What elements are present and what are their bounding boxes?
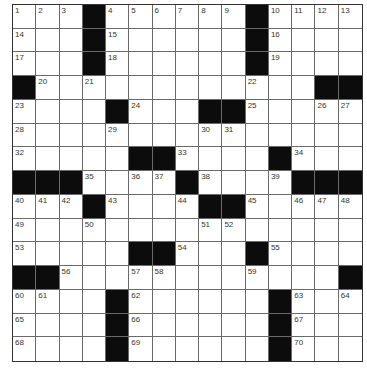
grid-cell[interactable]: 41 [36, 195, 59, 219]
grid-cell[interactable] [339, 242, 362, 266]
grid-cell[interactable] [315, 219, 338, 243]
grid-cell[interactable] [222, 337, 245, 361]
grid-cell[interactable] [106, 76, 129, 100]
grid-cell[interactable]: 14 [13, 29, 36, 53]
grid-cell[interactable]: 40 [13, 195, 36, 219]
grid-cell[interactable] [199, 314, 222, 338]
grid-cell[interactable] [153, 219, 176, 243]
grid-cell[interactable] [222, 29, 245, 53]
grid-cell[interactable] [36, 100, 59, 124]
grid-cell[interactable] [315, 290, 338, 314]
grid-cell[interactable]: 21 [83, 76, 106, 100]
grid-cell[interactable] [339, 29, 362, 53]
grid-cell[interactable] [246, 337, 269, 361]
grid-cell[interactable] [339, 147, 362, 171]
grid-cell[interactable] [315, 52, 338, 76]
grid-cell[interactable]: 28 [13, 124, 36, 148]
grid-cell[interactable] [269, 124, 292, 148]
grid-cell[interactable] [129, 124, 152, 148]
grid-cell[interactable] [315, 266, 338, 290]
grid-cell[interactable] [292, 76, 315, 100]
grid-cell[interactable] [339, 314, 362, 338]
grid-cell[interactable] [153, 337, 176, 361]
grid-cell[interactable] [199, 337, 222, 361]
grid-cell[interactable]: 36 [129, 171, 152, 195]
grid-cell[interactable] [36, 52, 59, 76]
grid-cell[interactable] [246, 314, 269, 338]
grid-cell[interactable]: 5 [129, 5, 152, 29]
grid-cell[interactable] [176, 124, 199, 148]
grid-cell[interactable] [153, 76, 176, 100]
grid-cell[interactable]: 37 [153, 171, 176, 195]
grid-cell[interactable] [292, 219, 315, 243]
grid-cell[interactable]: 34 [292, 147, 315, 171]
grid-cell[interactable]: 16 [269, 29, 292, 53]
grid-cell[interactable] [315, 314, 338, 338]
grid-cell[interactable]: 35 [83, 171, 106, 195]
grid-cell[interactable]: 56 [60, 266, 83, 290]
grid-cell[interactable] [292, 124, 315, 148]
grid-cell[interactable] [106, 242, 129, 266]
grid-cell[interactable] [153, 52, 176, 76]
grid-cell[interactable] [315, 29, 338, 53]
grid-cell[interactable] [36, 147, 59, 171]
grid-cell[interactable]: 17 [13, 52, 36, 76]
grid-cell[interactable] [60, 314, 83, 338]
grid-cell[interactable]: 58 [153, 266, 176, 290]
grid-cell[interactable] [83, 242, 106, 266]
grid-cell[interactable] [222, 266, 245, 290]
grid-cell[interactable]: 10 [269, 5, 292, 29]
grid-cell[interactable]: 54 [176, 242, 199, 266]
grid-cell[interactable] [106, 219, 129, 243]
grid-cell[interactable] [246, 290, 269, 314]
grid-cell[interactable]: 3 [60, 5, 83, 29]
grid-cell[interactable]: 42 [60, 195, 83, 219]
grid-cell[interactable] [176, 266, 199, 290]
grid-cell[interactable]: 15 [106, 29, 129, 53]
grid-cell[interactable] [153, 29, 176, 53]
grid-cell[interactable] [222, 290, 245, 314]
grid-cell[interactable] [106, 147, 129, 171]
grid-cell[interactable] [129, 76, 152, 100]
grid-cell[interactable] [176, 337, 199, 361]
grid-cell[interactable] [106, 171, 129, 195]
grid-cell[interactable]: 47 [315, 195, 338, 219]
grid-cell[interactable]: 49 [13, 219, 36, 243]
grid-cell[interactable] [36, 219, 59, 243]
grid-cell[interactable]: 38 [199, 171, 222, 195]
grid-cell[interactable]: 2 [36, 5, 59, 29]
grid-cell[interactable] [269, 195, 292, 219]
grid-cell[interactable] [36, 242, 59, 266]
grid-cell[interactable] [292, 29, 315, 53]
grid-cell[interactable]: 32 [13, 147, 36, 171]
grid-cell[interactable] [269, 219, 292, 243]
grid-cell[interactable]: 68 [13, 337, 36, 361]
grid-cell[interactable]: 25 [246, 100, 269, 124]
grid-cell[interactable] [129, 29, 152, 53]
grid-cell[interactable]: 19 [269, 52, 292, 76]
grid-cell[interactable] [199, 76, 222, 100]
grid-cell[interactable] [60, 147, 83, 171]
grid-cell[interactable] [176, 29, 199, 53]
grid-cell[interactable] [222, 171, 245, 195]
grid-cell[interactable] [222, 76, 245, 100]
grid-cell[interactable] [176, 290, 199, 314]
grid-cell[interactable] [36, 314, 59, 338]
grid-cell[interactable]: 20 [36, 76, 59, 100]
grid-cell[interactable] [153, 314, 176, 338]
grid-cell[interactable]: 70 [292, 337, 315, 361]
grid-cell[interactable] [60, 29, 83, 53]
grid-cell[interactable]: 46 [292, 195, 315, 219]
grid-cell[interactable] [339, 219, 362, 243]
grid-cell[interactable]: 60 [13, 290, 36, 314]
grid-cell[interactable] [246, 147, 269, 171]
grid-cell[interactable]: 48 [339, 195, 362, 219]
grid-cell[interactable]: 12 [315, 5, 338, 29]
grid-cell[interactable]: 30 [199, 124, 222, 148]
grid-cell[interactable]: 55 [269, 242, 292, 266]
grid-cell[interactable] [176, 100, 199, 124]
grid-cell[interactable]: 24 [129, 100, 152, 124]
grid-cell[interactable] [60, 100, 83, 124]
grid-cell[interactable] [315, 124, 338, 148]
grid-cell[interactable]: 51 [199, 219, 222, 243]
